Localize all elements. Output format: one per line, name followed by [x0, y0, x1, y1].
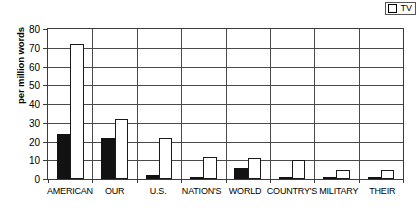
- y-tick-label: 60: [29, 61, 40, 72]
- bar-series-tv[interactable]: [159, 138, 172, 179]
- bar-series-1[interactable]: [190, 177, 203, 179]
- y-tick-label: 80: [29, 24, 40, 35]
- bar-group: [270, 29, 314, 179]
- bar-group: [181, 29, 225, 179]
- bar-group-bars: [48, 29, 92, 179]
- x-tick-mark: [48, 179, 49, 183]
- y-tick-mark: [43, 85, 47, 86]
- bar-series-1[interactable]: [368, 177, 381, 179]
- y-tick-mark: [43, 29, 47, 30]
- bar-group: [226, 29, 270, 179]
- x-tick-mark: [137, 179, 138, 183]
- bar-series-tv[interactable]: [248, 158, 261, 179]
- chart-legend: TV: [385, 2, 416, 15]
- y-tick-mark: [43, 142, 47, 143]
- y-tick-label: 70: [29, 42, 40, 53]
- bar-series-1[interactable]: [101, 138, 114, 179]
- bar-series-tv[interactable]: [381, 170, 394, 179]
- x-tick-label: AMERICAN: [47, 186, 93, 202]
- y-tick-mark: [43, 179, 47, 180]
- y-tick-label: 0: [34, 174, 40, 185]
- x-tick-label: MILITARY: [317, 186, 360, 202]
- bar-group-bars: [181, 29, 225, 179]
- x-tick-mark: [270, 179, 271, 183]
- bar-group-bars: [92, 29, 136, 179]
- plot-area: 01020304050607080: [47, 28, 404, 180]
- x-tick-mark: [359, 179, 360, 183]
- x-tick-label: WORLD: [223, 186, 266, 202]
- y-tick-mark: [43, 67, 47, 68]
- bar-series-1[interactable]: [57, 134, 70, 179]
- x-tick-mark: [314, 179, 315, 183]
- x-tick-mark: [92, 179, 93, 183]
- bar-series-tv[interactable]: [115, 119, 128, 179]
- bar-group-bars: [314, 29, 358, 179]
- bar-series-1[interactable]: [323, 177, 336, 179]
- bar-series-1[interactable]: [146, 175, 159, 179]
- y-tick-label: 30: [29, 117, 40, 128]
- bar-group-bars: [359, 29, 403, 179]
- y-tick-label: 10: [29, 155, 40, 166]
- x-tick-mark: [181, 179, 182, 183]
- x-tick-label: NATION'S: [180, 186, 223, 202]
- y-tick-mark: [43, 160, 47, 161]
- bar-group-bars: [226, 29, 270, 179]
- y-tick-label: 20: [29, 136, 40, 147]
- bar-series-tv[interactable]: [70, 44, 83, 179]
- bar-group-bars: [137, 29, 181, 179]
- bar-group: [48, 29, 92, 179]
- bar-group-bars: [270, 29, 314, 179]
- y-tick-label: 50: [29, 80, 40, 91]
- y-axis-title: per million words: [15, 6, 26, 126]
- bar-series-1[interactable]: [279, 177, 292, 179]
- bar-series-tv[interactable]: [336, 170, 349, 179]
- bar-group: [137, 29, 181, 179]
- x-tick-label: THEIR: [361, 186, 404, 202]
- x-tick-mark: [226, 179, 227, 183]
- legend-swatch-tv-icon: [388, 4, 397, 13]
- x-tick-label: OUR: [93, 186, 136, 202]
- y-tick-label: 40: [29, 99, 40, 110]
- y-tick-mark: [43, 48, 47, 49]
- legend-label-tv: TV: [400, 4, 412, 13]
- bar-series-tv[interactable]: [203, 157, 216, 180]
- x-tick-mark: [403, 179, 404, 183]
- x-tick-label: U.S.: [136, 186, 179, 202]
- x-axis-labels: AMERICANOURU.S.NATION'SWORLDCOUNTRY'SMIL…: [47, 186, 404, 202]
- y-tick-mark: [43, 123, 47, 124]
- bar-series-tv[interactable]: [292, 160, 305, 179]
- bar-group: [314, 29, 358, 179]
- bar-series-1[interactable]: [234, 168, 247, 179]
- bar-group: [359, 29, 403, 179]
- x-tick-label: COUNTRY'S: [267, 186, 317, 202]
- bar-group: [92, 29, 136, 179]
- y-tick-mark: [43, 104, 47, 105]
